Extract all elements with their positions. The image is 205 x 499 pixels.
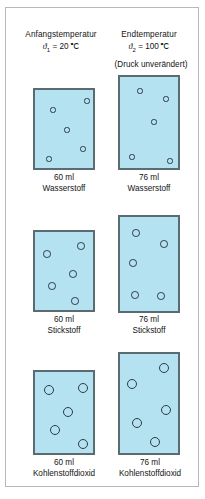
vessel-stickstoff-left bbox=[33, 230, 95, 312]
gas-particle bbox=[48, 282, 56, 290]
gas-particle bbox=[78, 383, 88, 393]
vessel-wasserstoff-right bbox=[118, 75, 180, 170]
theta-subscript-1: 1 bbox=[47, 47, 50, 53]
gas-particle bbox=[132, 229, 140, 237]
substance-label: Stickstoff bbox=[33, 326, 95, 337]
substance-label: Stickstoff bbox=[118, 326, 180, 337]
gas-particle bbox=[127, 379, 137, 389]
gas-particle bbox=[129, 154, 134, 159]
gas-particle bbox=[163, 96, 168, 101]
vessel-kohlenstoffdioxid-left bbox=[33, 370, 95, 455]
gas-particle bbox=[43, 250, 51, 258]
gas-particle bbox=[160, 240, 168, 248]
gas-particle bbox=[46, 156, 51, 161]
gas-particle bbox=[151, 119, 156, 124]
substance-label: Wasserstoff bbox=[33, 184, 95, 195]
vessel-stickstoff-right bbox=[118, 215, 180, 313]
figure-frame: Anfangstemperatur Endtemperatur ϑ1 = 20 … bbox=[5, 7, 199, 487]
volume-label: 60 ml bbox=[54, 458, 74, 467]
vessel-caption: 60 mlWasserstoff bbox=[33, 173, 95, 194]
vessel-caption: 76 mlKohlenstoffdioxid bbox=[106, 458, 194, 479]
volume-label: 76 ml bbox=[140, 458, 160, 467]
gas-particle bbox=[84, 98, 89, 103]
gas-particle bbox=[157, 292, 165, 300]
gas-particle bbox=[159, 363, 169, 373]
gas-particle bbox=[71, 297, 79, 305]
gas-particle bbox=[64, 127, 69, 132]
volume-label: 76 ml bbox=[139, 315, 159, 324]
vessel-caption: 76 mlWasserstoff bbox=[118, 173, 180, 194]
vessel-caption: 76 mlStickstoff bbox=[118, 315, 180, 336]
gas-particle bbox=[69, 270, 77, 278]
gas-particle bbox=[131, 291, 139, 299]
gas-particle bbox=[50, 107, 55, 112]
final-temperature-number: = 100 ℃ bbox=[138, 42, 169, 51]
volume-label: 76 ml bbox=[139, 173, 159, 182]
theta-subscript-2: 2 bbox=[133, 47, 136, 53]
pressure-note: (Druck unverändert) bbox=[104, 60, 198, 70]
final-temperature-value: ϑ2 = 100 ℃ bbox=[106, 42, 192, 55]
gas-particle bbox=[44, 385, 54, 395]
substance-label: Wasserstoff bbox=[118, 184, 180, 195]
vessel-kohlenstoffdioxid-right bbox=[118, 352, 180, 455]
vessel-wasserstoff-left bbox=[33, 88, 95, 170]
gas-particle bbox=[150, 437, 160, 447]
gas-particle bbox=[80, 146, 85, 151]
gas-particle bbox=[129, 259, 137, 267]
initial-temperature-value: ϑ1 = 20 ℃ bbox=[18, 42, 104, 55]
gas-particle bbox=[161, 405, 171, 415]
gas-particle bbox=[63, 407, 73, 417]
gas-particle bbox=[77, 242, 85, 250]
gas-particle bbox=[137, 88, 142, 93]
volume-label: 60 ml bbox=[54, 173, 74, 182]
substance-label: Kohlenstoffdioxid bbox=[106, 469, 194, 480]
gas-particle bbox=[167, 158, 172, 163]
gas-particle bbox=[78, 439, 88, 449]
initial-temperature-number: = 20 ℃ bbox=[52, 42, 79, 51]
gas-particle bbox=[50, 425, 60, 435]
header-title-initial-temperature: Anfangstemperatur bbox=[18, 30, 104, 40]
gas-particle bbox=[132, 418, 142, 428]
substance-label: Kohlenstoffdioxid bbox=[20, 469, 108, 480]
header-title-final-temperature: Endtemperatur bbox=[106, 30, 192, 40]
volume-label: 60 ml bbox=[54, 315, 74, 324]
vessel-caption: 60 mlKohlenstoffdioxid bbox=[20, 458, 108, 479]
vessel-caption: 60 mlStickstoff bbox=[33, 315, 95, 336]
